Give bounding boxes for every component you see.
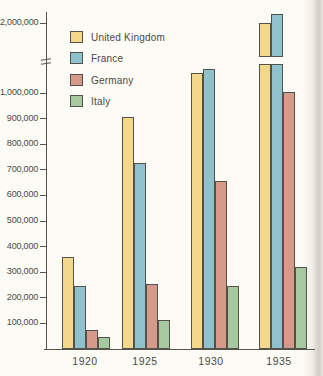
y-tick-label-900-000: 900,000 xyxy=(0,113,38,123)
legend-label-united-kingdom: United Kingdom xyxy=(91,32,165,43)
bar-united-kingdom-1925 xyxy=(122,117,134,349)
bar-italy-1930 xyxy=(227,286,239,349)
legend-swatch-united-kingdom xyxy=(70,31,83,43)
y-tick-label-700-000: 700,000 xyxy=(0,164,38,174)
bar-germany-1920 xyxy=(86,330,98,349)
legend-swatch-italy xyxy=(70,95,83,107)
legend-label-germany: Germany xyxy=(91,75,134,86)
x-axis-label-1935: 1935 xyxy=(259,355,299,367)
y-tick-mark-300-000 xyxy=(40,272,47,273)
bar-united-kingdom-1935-upper-segment xyxy=(259,23,271,57)
y-tick-label-500-000: 500,000 xyxy=(0,215,38,225)
legend-label-france: France xyxy=(91,53,123,64)
y-tick-label-100-000: 100,000 xyxy=(0,317,38,327)
y-tick-mark-800-000 xyxy=(40,144,47,145)
y-tick-mark-100-000 xyxy=(40,323,47,324)
y-tick-mark-700-000 xyxy=(40,169,47,170)
y-tick-mark-400-000 xyxy=(40,246,47,247)
bar-italy-1935 xyxy=(295,267,307,349)
chart-page: 100,000200,000300,000400,000500,000600,0… xyxy=(0,0,323,376)
bar-germany-1935 xyxy=(283,92,295,349)
bar-france-1920 xyxy=(74,286,86,349)
y-tick-label-800-000: 800,000 xyxy=(0,138,38,148)
bar-italy-1920 xyxy=(98,337,110,349)
bar-united-kingdom-1935-lower-segment xyxy=(259,64,271,349)
y-tick-mark-600-000 xyxy=(40,195,47,196)
x-axis-line xyxy=(44,349,315,350)
y-tick-label-200-000: 200,000 xyxy=(0,292,38,302)
bar-united-kingdom-1920 xyxy=(62,257,74,349)
bar-united-kingdom-1930 xyxy=(191,73,203,349)
y-tick-label-2-000-000: 2,000,000 xyxy=(0,17,38,27)
y-tick-label-300-000: 300,000 xyxy=(0,266,38,276)
bar-italy-1925 xyxy=(158,320,170,349)
bar-germany-1925 xyxy=(146,284,158,349)
bar-germany-1930 xyxy=(215,181,227,349)
x-axis-label-1930: 1930 xyxy=(191,355,231,367)
y-tick-mark-1-000-000 xyxy=(40,93,47,94)
axis-break-dash-2 xyxy=(41,62,51,65)
x-axis-label-1925: 1925 xyxy=(125,355,165,367)
bar-france-1935-upper-segment xyxy=(271,14,283,57)
bar-france-1925 xyxy=(134,163,146,349)
legend-label-italy: Italy xyxy=(91,96,110,107)
y-tick-label-1-000-000: 1,000,000 xyxy=(0,87,38,97)
bar-chart: 100,000200,000300,000400,000500,000600,0… xyxy=(0,0,323,376)
y-tick-label-400-000: 400,000 xyxy=(0,241,38,251)
y-tick-mark-2-000-000 xyxy=(40,23,47,24)
bar-france-1935-lower-segment xyxy=(271,64,283,349)
y-tick-mark-500-000 xyxy=(40,221,47,222)
bar-france-1930 xyxy=(203,69,215,349)
y-tick-mark-900-000 xyxy=(40,118,47,119)
y-tick-mark-200-000 xyxy=(40,297,47,298)
x-axis-label-1920: 1920 xyxy=(65,355,105,367)
y-tick-label-600-000: 600,000 xyxy=(0,189,38,199)
legend-swatch-germany xyxy=(70,74,83,86)
legend-swatch-france xyxy=(70,52,83,64)
